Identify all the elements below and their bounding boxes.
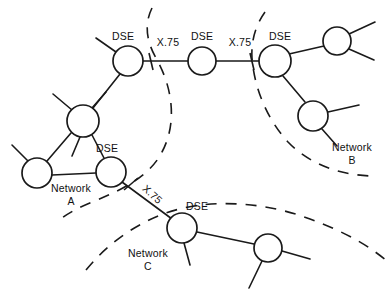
link-a-mid-to-a-left bbox=[47, 133, 71, 161]
label-network-b-name: Network bbox=[332, 141, 372, 153]
label-dse-relay: DSE bbox=[191, 30, 213, 42]
node-a-dse-top[interactable] bbox=[113, 46, 143, 76]
link-b-dse-to-b-low bbox=[283, 76, 305, 102]
diagram-nodes bbox=[22, 27, 351, 262]
label-dse-a-bottom: DSE bbox=[96, 142, 118, 154]
node-c-dse[interactable] bbox=[167, 213, 197, 243]
node-b-dse[interactable] bbox=[259, 45, 291, 77]
stub-b-top-downright bbox=[349, 49, 374, 60]
label-x75-top-left: X.75 bbox=[157, 36, 179, 48]
node-a-left[interactable] bbox=[22, 158, 52, 188]
stub-b-low-right bbox=[328, 105, 359, 112]
stub-c-right-downleft bbox=[249, 261, 262, 288]
node-b-low[interactable] bbox=[298, 101, 328, 131]
stub-a-mid-upleft bbox=[53, 94, 72, 110]
label-network-a-name: Network bbox=[51, 182, 91, 194]
link-b-dse-to-b-top bbox=[289, 46, 324, 54]
label-network-c-name: Network bbox=[128, 247, 168, 259]
stub-a-mid-down bbox=[72, 137, 80, 156]
label-dse-c: DSE bbox=[186, 200, 208, 212]
stub-a-mid-upright bbox=[92, 92, 106, 108]
stub-b-top-upright bbox=[349, 22, 375, 34]
diagram-canvas: DSE DSE DSE DSE DSE X.75 X.75 X.75 Netwo… bbox=[0, 0, 390, 305]
node-a-mid[interactable] bbox=[67, 105, 99, 137]
label-network-a-letter: A bbox=[67, 195, 74, 207]
network-labels: Network A Network B Network C bbox=[51, 141, 372, 272]
node-relay-dse[interactable] bbox=[188, 47, 216, 75]
stub-c-dse-down bbox=[184, 243, 190, 265]
label-dse-a-top: DSE bbox=[112, 30, 134, 42]
link-c-dse-to-c-right bbox=[197, 232, 254, 244]
network-diagram: DSE DSE DSE DSE DSE X.75 X.75 X.75 Netwo… bbox=[0, 0, 390, 305]
label-x75-diagonal: X.75 bbox=[140, 182, 165, 206]
stub-c-right-right bbox=[282, 251, 310, 259]
node-b-top[interactable] bbox=[323, 27, 351, 55]
label-network-b-letter: B bbox=[348, 154, 355, 166]
link-a-left-to-a-dse-bottom bbox=[52, 173, 96, 175]
cloud-network-c bbox=[86, 204, 388, 270]
node-c-right[interactable] bbox=[254, 234, 282, 262]
node-a-dse-bottom[interactable] bbox=[96, 157, 126, 187]
stub-a-left-upleft bbox=[12, 145, 28, 161]
label-x75-top-right: X.75 bbox=[229, 36, 251, 48]
x75-boundary-ticks bbox=[124, 53, 254, 190]
label-dse-b: DSE bbox=[269, 30, 291, 42]
label-network-c-letter: C bbox=[144, 260, 152, 272]
